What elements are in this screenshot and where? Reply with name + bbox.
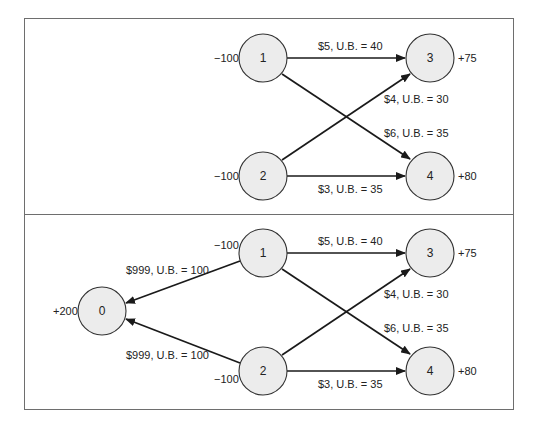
supply-node-2-b: −100 (214, 373, 239, 385)
top-edges (282, 58, 410, 176)
edge-label-2-3-b: $4, U.B. = 30 (384, 288, 449, 300)
svg-text:2: 2 (260, 364, 267, 378)
svg-text:3: 3 (427, 246, 434, 260)
demand-node-0: +200 (53, 305, 78, 317)
node-2-b: 2 (239, 347, 287, 395)
node-0-dummy: 0 (78, 287, 126, 335)
node-2: 2 (239, 152, 287, 200)
supply-node-1-b: −100 (214, 239, 239, 251)
demand-node-4-b: +80 (458, 365, 477, 377)
node-4-b: 4 (406, 347, 454, 395)
network-diagram: $5, U.B. = 40 $4, U.B. = 30 $6, U.B. = 3… (0, 0, 543, 428)
svg-text:1: 1 (260, 246, 267, 260)
svg-text:0: 0 (99, 304, 106, 318)
node-3: 3 (406, 34, 454, 82)
edge-label-2-3: $4, U.B. = 30 (384, 93, 449, 105)
svg-text:4: 4 (427, 364, 434, 378)
demand-node-3: +75 (458, 52, 477, 64)
node-1-b: 1 (239, 229, 287, 277)
svg-text:2: 2 (260, 169, 267, 183)
node-4: 4 (406, 152, 454, 200)
edge-label-1-3: $5, U.B. = 40 (318, 40, 383, 52)
node-1: 1 (239, 34, 287, 82)
svg-text:1: 1 (260, 51, 267, 65)
node-3-b: 3 (406, 229, 454, 277)
svg-text:4: 4 (427, 169, 434, 183)
edge-label-1-3-b: $5, U.B. = 40 (318, 235, 383, 247)
edge-label-1-4: $6, U.B. = 35 (384, 127, 449, 139)
demand-node-4: +80 (458, 170, 477, 182)
demand-node-3-b: +75 (458, 247, 477, 259)
edge-label-2-4: $3, U.B. = 35 (318, 183, 383, 195)
edge-label-1-0: $999, U.B. = 100 (126, 264, 209, 276)
svg-text:3: 3 (427, 51, 434, 65)
edge-label-2-0: $999, U.B. = 100 (126, 349, 209, 361)
edge-label-2-4-b: $3, U.B. = 35 (318, 378, 383, 390)
supply-node-2: −100 (214, 170, 239, 182)
edge-label-1-4-b: $6, U.B. = 35 (384, 322, 449, 334)
supply-node-1: −100 (214, 52, 239, 64)
